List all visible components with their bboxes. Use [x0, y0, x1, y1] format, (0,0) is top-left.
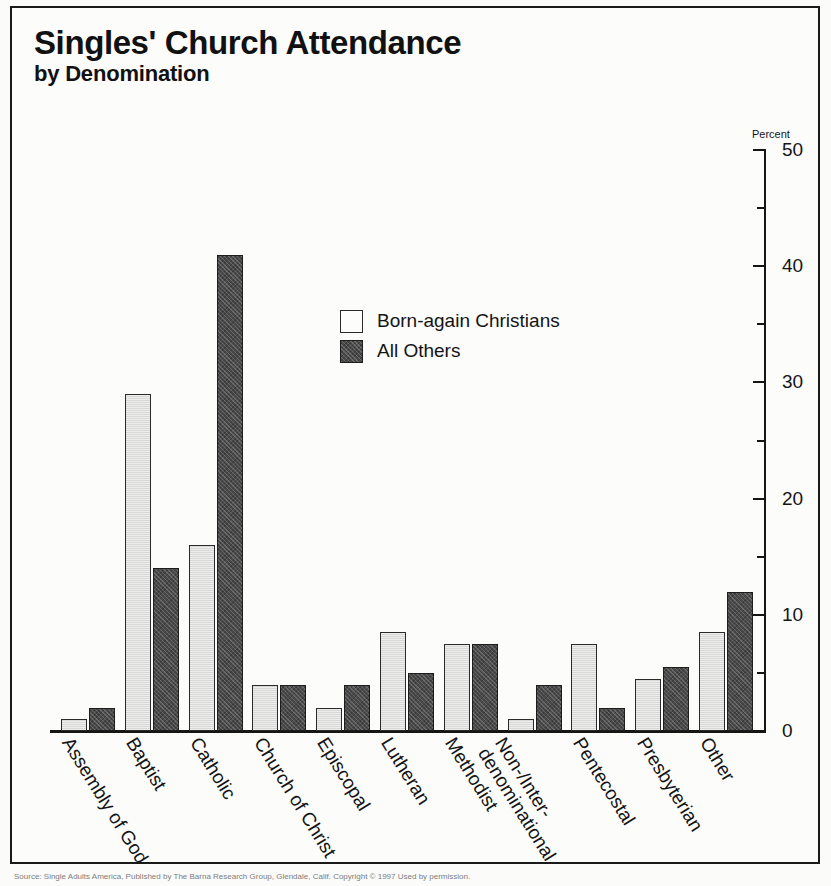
- bar-all-others[interactable]: [599, 708, 625, 731]
- bar-group: [699, 128, 753, 731]
- bar-group: [571, 128, 625, 731]
- source-note: Source: Single Adults America, Published…: [14, 872, 819, 881]
- bar-born-again[interactable]: [252, 685, 278, 731]
- bar-all-others[interactable]: [663, 667, 689, 731]
- bar-all-others[interactable]: [89, 708, 115, 731]
- bar-all-others[interactable]: [217, 255, 243, 731]
- legend-swatch-dark-icon: [340, 340, 363, 363]
- bar-series-container: [42, 128, 764, 731]
- x-axis-label: Episcopal: [313, 734, 374, 814]
- bar-group: [444, 128, 498, 731]
- x-axis-category-labels: Assembly of GodBaptistCatholicChurch of …: [42, 734, 812, 869]
- x-axis-label: Presbyterian: [633, 734, 706, 835]
- legend-swatch-light-icon: [340, 310, 363, 333]
- bar-born-again[interactable]: [61, 719, 87, 731]
- legend-item-born-again[interactable]: Born-again Christians: [340, 306, 650, 336]
- x-axis-label: Pentecostal: [569, 734, 639, 829]
- bar-all-others[interactable]: [536, 685, 562, 731]
- chart-frame: Singles' Church Attendance by Denominati…: [10, 6, 820, 864]
- y-tick-label: 30: [782, 371, 803, 393]
- legend-label-born-again: Born-again Christians: [377, 310, 560, 332]
- bar-group: [189, 128, 243, 731]
- bar-born-again[interactable]: [316, 708, 342, 731]
- x-axis-label: Lutheran: [377, 734, 434, 808]
- x-axis-label: Other: [696, 734, 738, 785]
- bar-all-others[interactable]: [408, 673, 434, 731]
- bar-born-again[interactable]: [635, 679, 661, 731]
- bar-all-others[interactable]: [280, 685, 306, 731]
- bar-born-again[interactable]: [508, 719, 534, 731]
- bar-group: [316, 128, 370, 731]
- page-subtitle: by Denomination: [34, 62, 734, 86]
- bar-born-again[interactable]: [380, 632, 406, 731]
- y-tick-label: 10: [782, 604, 803, 626]
- bar-all-others[interactable]: [153, 568, 179, 731]
- bar-all-others[interactable]: [472, 644, 498, 731]
- plot-area: Percent 01020304050: [42, 128, 812, 738]
- bar-all-others[interactable]: [727, 592, 753, 731]
- bar-group: [380, 128, 434, 731]
- bar-group: [61, 128, 115, 731]
- bar-group: [252, 128, 306, 731]
- y-tick-label: 40: [782, 255, 803, 277]
- y-tick-label: 20: [782, 488, 803, 510]
- legend-label-all-others: All Others: [377, 340, 460, 362]
- bar-born-again[interactable]: [699, 632, 725, 731]
- x-axis-label: Baptist: [122, 734, 170, 794]
- x-axis-label: Catholic: [186, 734, 239, 803]
- bar-group: [635, 128, 689, 731]
- bar-born-again[interactable]: [444, 644, 470, 731]
- legend-item-all-others[interactable]: All Others: [340, 336, 650, 366]
- chart-page: Singles' Church Attendance by Denominati…: [0, 0, 831, 886]
- title-block: Singles' Church Attendance by Denominati…: [34, 26, 734, 86]
- bar-all-others[interactable]: [344, 685, 370, 731]
- page-title: Singles' Church Attendance: [34, 26, 734, 60]
- legend: Born-again Christians All Others: [340, 306, 650, 366]
- bar-born-again[interactable]: [189, 545, 215, 731]
- y-tick-label: 50: [782, 139, 803, 161]
- bar-born-again[interactable]: [125, 394, 151, 731]
- bar-group: [125, 128, 179, 731]
- bar-born-again[interactable]: [571, 644, 597, 731]
- bar-group: [508, 128, 562, 731]
